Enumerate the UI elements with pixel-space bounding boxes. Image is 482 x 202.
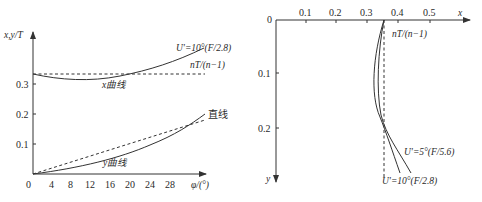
left-x-tick: 12: [85, 179, 95, 190]
left-x-tick: 16: [105, 179, 115, 190]
left-x-tick: 28: [165, 179, 175, 190]
nT-label: nT/(n−1): [190, 60, 225, 71]
left-y-tick: 0.3: [16, 79, 29, 90]
right-chart: 0 x y 0.1 0.2 0.3 0.4 0.5 0.1 0.2 nT/(n−…: [258, 7, 470, 187]
u10-curve: [374, 20, 400, 173]
right-y-tick: 0.2: [258, 123, 271, 134]
left-y-tick: 0.2: [16, 109, 29, 120]
right-nT-label: nT/(n−1): [392, 29, 427, 40]
right-x-tick: 0.2: [329, 7, 342, 18]
u5-label: U'=5°(F/5.6): [404, 147, 455, 158]
right-x-tick: 0.3: [360, 7, 373, 18]
u10-right-label: U'=10°(F/2.8): [382, 176, 437, 187]
right-x-tick: 0.4: [391, 7, 404, 18]
x-curve-label: x曲线: [101, 80, 127, 90]
u10-label: U'=10°(F/2.8): [176, 43, 231, 54]
y-curve-label: y曲线: [102, 158, 128, 168]
left-x-tick: 8: [68, 179, 73, 190]
right-x-tick: 0.5: [423, 7, 436, 18]
right-x-axis-label: x: [457, 8, 463, 18]
right-origin-label: 0: [267, 14, 272, 25]
left-x-tick: 24: [145, 179, 155, 190]
right-y-axis-label: y: [265, 174, 271, 184]
left-chart: x,y/T φ/(°) 0.3 0.2 0.1 0 4 8 12 16 20 2…: [3, 30, 231, 191]
left-x-tick: 20: [125, 179, 135, 190]
left-y-tick: 0.1: [16, 139, 29, 150]
right-x-tick: 0.1: [299, 7, 312, 18]
left-y-axis-label: x,y/T: [3, 30, 23, 40]
left-x-tick: 4: [49, 179, 54, 190]
left-x-tick: 0: [26, 179, 31, 190]
diagram-canvas: x,y/T φ/(°) 0.3 0.2 0.1 0 4 8 12 16 20 2…: [0, 0, 482, 202]
straight-line-label: 直线: [208, 108, 228, 120]
right-y-tick: 0.1: [258, 68, 271, 79]
left-x-axis-label: φ/(°): [191, 180, 209, 191]
